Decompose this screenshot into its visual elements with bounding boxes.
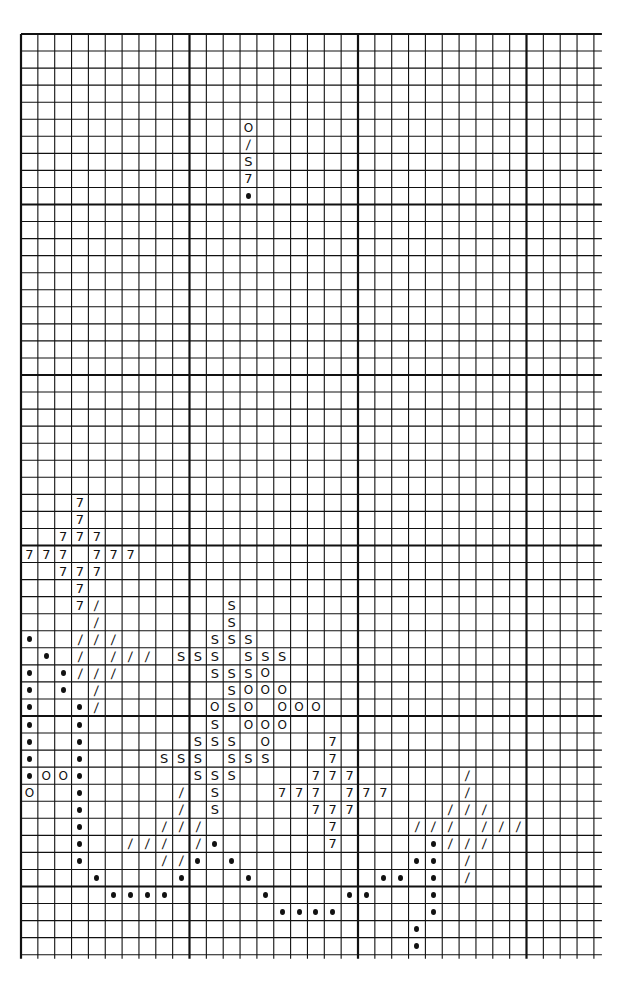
seven-symbol: 7 xyxy=(341,784,358,801)
s-symbol: S xyxy=(223,699,240,716)
o-symbol: O xyxy=(257,665,274,682)
dot-symbol xyxy=(139,887,156,904)
seven-symbol: 7 xyxy=(324,733,341,750)
dot-symbol xyxy=(358,887,375,904)
seven-symbol: 7 xyxy=(341,801,358,818)
seven-symbol: 7 xyxy=(291,784,308,801)
slash-symbol: / xyxy=(155,835,173,852)
seven-symbol: 7 xyxy=(307,767,324,784)
s-symbol: S xyxy=(190,750,207,767)
slash-symbol: / xyxy=(239,136,257,153)
s-symbol: S xyxy=(274,648,291,665)
seven-symbol: 7 xyxy=(38,546,55,563)
seven-symbol: 7 xyxy=(274,784,291,801)
dot-symbol xyxy=(21,631,38,648)
slash-symbol: / xyxy=(121,835,139,852)
slash-symbol: / xyxy=(475,835,493,852)
s-symbol: S xyxy=(223,665,240,682)
slash-symbol: / xyxy=(172,818,190,835)
seven-symbol: 7 xyxy=(307,784,324,801)
seven-symbol: 7 xyxy=(324,818,341,835)
o-symbol: O xyxy=(240,716,257,733)
dot-symbol xyxy=(72,699,89,716)
seven-symbol: 7 xyxy=(88,528,105,545)
dot-symbol xyxy=(72,835,89,852)
dot-symbol xyxy=(21,733,38,750)
o-symbol: O xyxy=(291,699,308,716)
dot-symbol xyxy=(21,665,38,682)
dot-symbol xyxy=(21,682,38,699)
slash-symbol: / xyxy=(172,784,190,801)
seven-symbol: 7 xyxy=(324,767,341,784)
s-symbol: S xyxy=(190,648,207,665)
dot-symbol xyxy=(223,852,240,869)
slash-symbol: / xyxy=(138,648,156,665)
seven-symbol: 7 xyxy=(358,784,375,801)
s-symbol: S xyxy=(223,597,240,614)
slash-symbol: / xyxy=(458,784,476,801)
s-symbol: S xyxy=(206,665,223,682)
dot-symbol xyxy=(425,835,442,852)
dot-symbol xyxy=(409,921,426,938)
s-symbol: S xyxy=(206,733,223,750)
slash-symbol: / xyxy=(105,665,123,682)
o-symbol: O xyxy=(206,699,223,716)
slash-symbol: / xyxy=(458,835,476,852)
dot-symbol xyxy=(274,904,291,921)
dot-symbol xyxy=(307,904,324,921)
dot-symbol xyxy=(105,887,122,904)
slash-symbol: / xyxy=(121,648,139,665)
seven-symbol: 7 xyxy=(72,511,89,528)
seven-symbol: 7 xyxy=(88,563,105,580)
o-symbol: O xyxy=(240,119,257,136)
dot-symbol xyxy=(425,869,442,886)
slash-symbol: / xyxy=(88,665,106,682)
seven-symbol: 7 xyxy=(341,767,358,784)
seven-symbol: 7 xyxy=(375,784,392,801)
s-symbol: S xyxy=(240,648,257,665)
slash-symbol: / xyxy=(458,852,476,869)
slash-symbol: / xyxy=(442,835,460,852)
o-symbol: O xyxy=(307,699,324,716)
slash-symbol: / xyxy=(458,767,476,784)
seven-symbol: 7 xyxy=(105,546,122,563)
slash-symbol: / xyxy=(458,801,476,818)
slash-symbol: / xyxy=(71,665,89,682)
dot-symbol xyxy=(257,887,274,904)
slash-symbol: / xyxy=(155,852,173,869)
dot-symbol xyxy=(425,904,442,921)
s-symbol: S xyxy=(190,733,207,750)
slash-symbol: / xyxy=(105,648,123,665)
dot-symbol xyxy=(156,887,173,904)
o-symbol: O xyxy=(240,682,257,699)
s-symbol: S xyxy=(257,648,274,665)
slash-symbol: / xyxy=(492,818,510,835)
slash-symbol: / xyxy=(88,682,106,699)
dot-symbol xyxy=(72,784,89,801)
dot-symbol xyxy=(425,852,442,869)
o-symbol: O xyxy=(257,733,274,750)
s-symbol: S xyxy=(240,665,257,682)
slash-symbol: / xyxy=(458,869,476,886)
s-symbol: S xyxy=(206,716,223,733)
dot-symbol xyxy=(88,869,105,886)
s-symbol: S xyxy=(206,648,223,665)
s-symbol: S xyxy=(156,750,173,767)
seven-symbol: 7 xyxy=(88,546,105,563)
o-symbol: O xyxy=(274,716,291,733)
seven-symbol: 7 xyxy=(72,597,89,614)
slash-symbol: / xyxy=(138,835,156,852)
s-symbol: S xyxy=(206,631,223,648)
slash-symbol: / xyxy=(475,801,493,818)
seven-symbol: 7 xyxy=(72,580,89,597)
seven-symbol: 7 xyxy=(21,546,38,563)
o-symbol: O xyxy=(274,682,291,699)
dot-symbol xyxy=(72,716,89,733)
dot-symbol xyxy=(190,852,207,869)
seven-symbol: 7 xyxy=(307,801,324,818)
dot-symbol xyxy=(291,904,308,921)
s-symbol: S xyxy=(223,682,240,699)
seven-symbol: 7 xyxy=(72,563,89,580)
seven-symbol: 7 xyxy=(72,528,89,545)
s-symbol: S xyxy=(240,631,257,648)
